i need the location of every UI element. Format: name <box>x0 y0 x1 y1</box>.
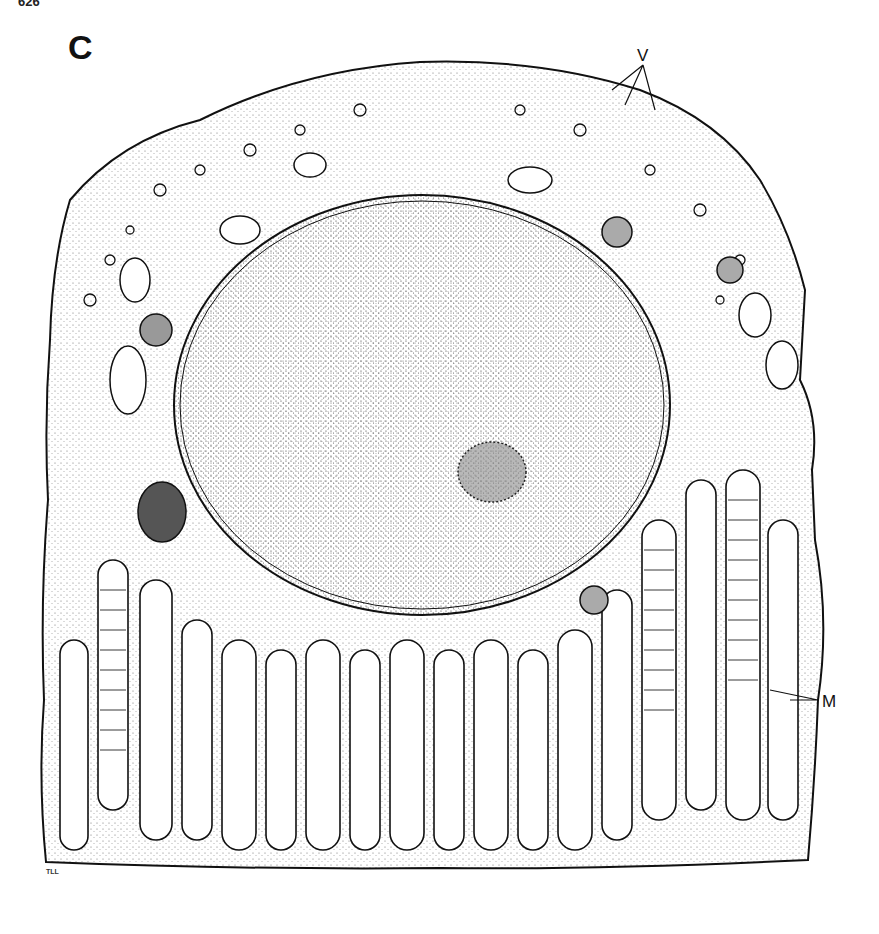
granule <box>140 314 172 346</box>
artist-initials: TLL <box>46 868 59 875</box>
nucleolus <box>458 442 526 502</box>
vesicles-label: V <box>637 46 648 66</box>
granule <box>580 586 608 614</box>
mitochondria-label: M <box>822 692 836 712</box>
granule <box>602 217 632 247</box>
cell-illustration <box>0 0 879 934</box>
dense-body <box>138 482 186 542</box>
nucleus <box>174 195 670 615</box>
granule <box>717 257 743 283</box>
